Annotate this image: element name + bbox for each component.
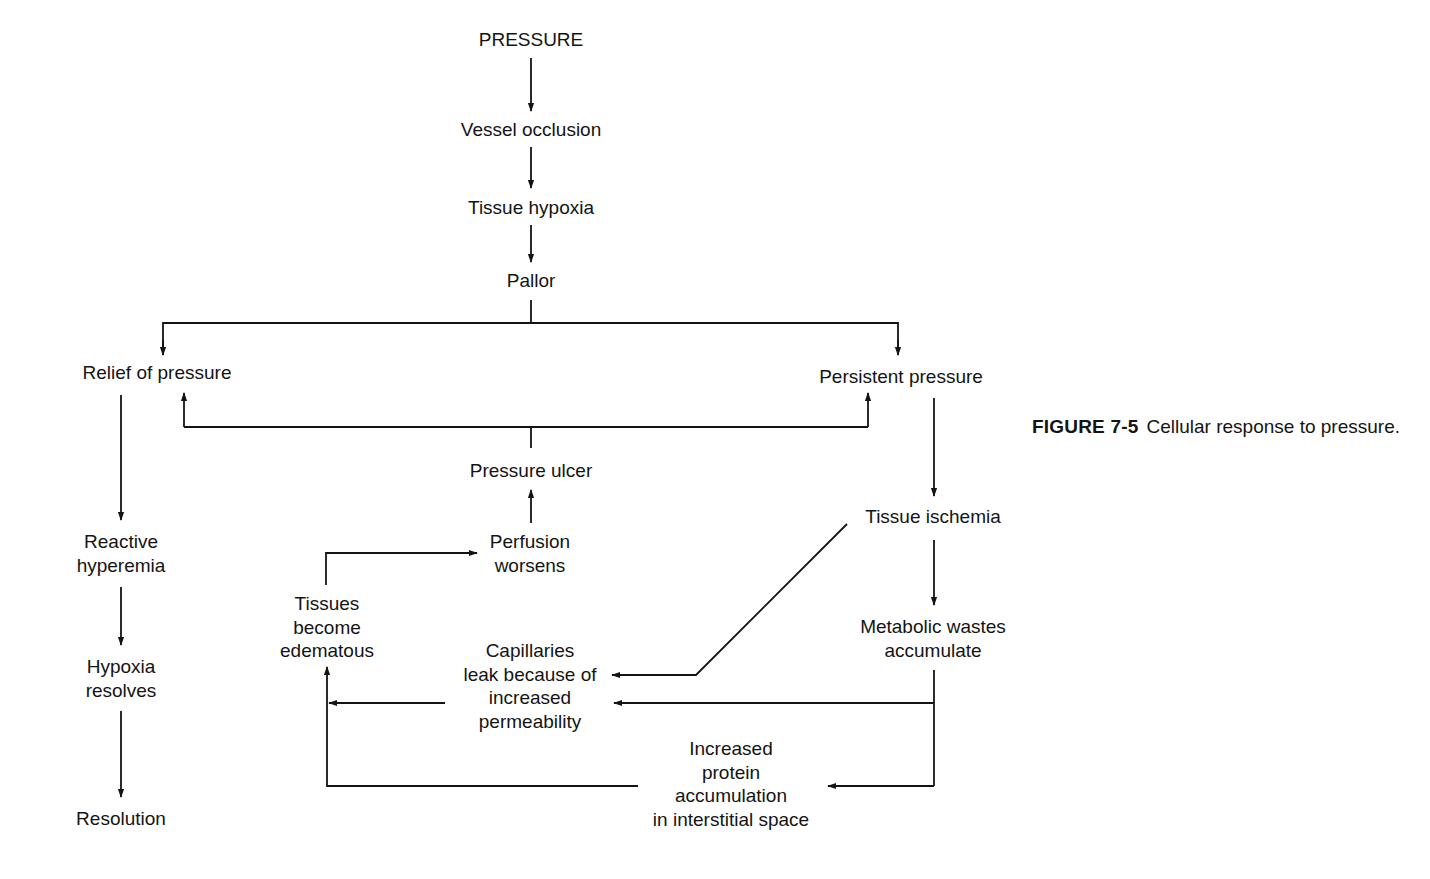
node-label-line: Tissues xyxy=(280,592,374,616)
node-label-line: leak because of xyxy=(463,663,596,687)
node-pressure-ulcer: Pressure ulcer xyxy=(470,459,593,483)
node-persistent-pressure: Persistent pressure xyxy=(819,365,983,389)
node-label-line: increased xyxy=(463,686,596,710)
node-hypoxia-resolves: Hypoxia resolves xyxy=(86,655,157,702)
node-relief-of-pressure: Relief of pressure xyxy=(83,361,232,385)
node-label-line: accumulate xyxy=(860,639,1006,663)
node-label-line: protein xyxy=(653,761,809,785)
node-label-line: hyperemia xyxy=(77,554,166,578)
node-label: Pressure ulcer xyxy=(470,460,593,481)
node-tissue-hypoxia: Tissue hypoxia xyxy=(468,196,594,220)
node-label: Tissue ischemia xyxy=(865,506,1001,527)
figure-label: FIGURE 7-5 xyxy=(1032,416,1139,437)
node-label-line: resolves xyxy=(86,679,157,703)
node-label-line: Metabolic wastes xyxy=(860,615,1006,639)
node-label: Resolution xyxy=(76,808,166,829)
node-label: Pallor xyxy=(507,270,556,291)
node-metabolic-wastes: Metabolic wastes accumulate xyxy=(860,615,1006,662)
node-label-line: permeability xyxy=(463,710,596,734)
node-label-line: in interstitial space xyxy=(653,808,809,832)
node-perfusion-worsens: Perfusion worsens xyxy=(490,530,570,577)
node-vessel-occlusion: Vessel occlusion xyxy=(461,118,601,142)
pallor-split-bracket xyxy=(163,323,898,355)
figure-caption: FIGURE 7-5Cellular response to pressure. xyxy=(1032,416,1400,438)
node-pallor: Pallor xyxy=(507,269,556,293)
arrow-edematous-to-perfusion xyxy=(326,553,477,585)
node-label-line: worsens xyxy=(490,554,570,578)
node-protein-accumulation: Increased protein accumulation in inters… xyxy=(653,737,809,831)
node-pressure: PRESSURE xyxy=(479,28,584,52)
node-label-line: Increased xyxy=(653,737,809,761)
node-label-line: become xyxy=(280,616,374,640)
node-label-line: Capillaries xyxy=(463,639,596,663)
node-reactive-hyperemia: Reactive hyperemia xyxy=(77,530,166,577)
node-label: Persistent pressure xyxy=(819,366,983,387)
node-label-line: Perfusion xyxy=(490,530,570,554)
node-resolution: Resolution xyxy=(76,807,166,831)
node-label-line: Hypoxia xyxy=(86,655,157,679)
node-label: Vessel occlusion xyxy=(461,119,601,140)
node-label-line: edematous xyxy=(280,639,374,663)
node-label-line: accumulation xyxy=(653,784,809,808)
node-label-line: Reactive xyxy=(77,530,166,554)
arrow-ischemia-to-capillaries xyxy=(612,524,847,675)
node-capillaries-leak: Capillaries leak because of increased pe… xyxy=(463,639,596,733)
figure-caption-text: Cellular response to pressure. xyxy=(1147,416,1400,437)
node-tissue-ischemia: Tissue ischemia xyxy=(865,505,1001,529)
node-tissues-edematous: Tissues become edematous xyxy=(280,592,374,663)
node-label: Tissue hypoxia xyxy=(468,197,594,218)
node-label: Relief of pressure xyxy=(83,362,232,383)
node-label: PRESSURE xyxy=(479,29,584,50)
